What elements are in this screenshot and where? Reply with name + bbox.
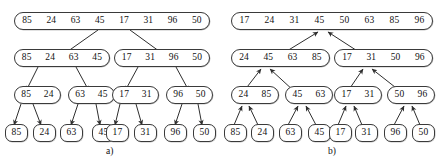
array-cell: 85 bbox=[382, 16, 407, 26]
leaf-value: 96 bbox=[391, 128, 401, 138]
array-cell: 17 bbox=[335, 90, 358, 100]
array-node: 17 24 31 45 50 63 85 96 bbox=[231, 12, 433, 30]
array-cell: 17 bbox=[112, 16, 136, 26]
leaf-value: 85 bbox=[231, 128, 241, 138]
leaf-node: 50 bbox=[193, 124, 216, 142]
leaf-value: 17 bbox=[336, 128, 346, 138]
leaf-node: 96 bbox=[384, 124, 407, 142]
array-node: 17 31 bbox=[334, 86, 382, 104]
array-cell: 45 bbox=[88, 16, 112, 26]
leaf-node: 63 bbox=[60, 124, 83, 142]
leaf-value: 85 bbox=[12, 128, 22, 138]
array-cell: 24 bbox=[39, 16, 63, 26]
array-cell: 50 bbox=[384, 53, 408, 63]
array-cell: 63 bbox=[309, 90, 332, 100]
array-node: 63 45 bbox=[68, 86, 115, 104]
leaf-node: 31 bbox=[134, 124, 157, 142]
leaf-node: 17 bbox=[106, 124, 129, 142]
array-node: 50 96 bbox=[387, 86, 435, 104]
leaf-node: 96 bbox=[164, 124, 187, 142]
leaf-node: 31 bbox=[355, 124, 378, 142]
array-node: 85 24 63 45 bbox=[14, 49, 110, 67]
array-cell: 24 bbox=[232, 53, 256, 63]
panel-a-split-phase: 85 24 63 45 17 31 96 50 85 24 63 45 17 3… bbox=[0, 0, 222, 164]
leaf-node: 50 bbox=[412, 124, 435, 142]
leaf-node: 17 bbox=[329, 124, 352, 142]
leaf-value: 50 bbox=[419, 128, 429, 138]
leaf-value: 63 bbox=[67, 128, 77, 138]
panel-b-caption: b) bbox=[328, 146, 336, 156]
leaf-node: 45 bbox=[308, 124, 331, 142]
leaf-value: 31 bbox=[362, 128, 372, 138]
merge-sort-figure: 85 24 63 45 17 31 96 50 85 24 63 45 17 3… bbox=[0, 0, 444, 164]
array-cell: 63 bbox=[62, 53, 86, 63]
array-cell: 50 bbox=[185, 16, 209, 26]
leaf-node: 24 bbox=[251, 124, 274, 142]
array-cell: 17 bbox=[115, 53, 139, 63]
array-cell: 85 bbox=[305, 53, 329, 63]
leaf-node: 63 bbox=[279, 124, 302, 142]
array-cell: 45 bbox=[256, 53, 280, 63]
array-cell: 50 bbox=[190, 90, 213, 100]
leaf-value: 31 bbox=[141, 128, 151, 138]
array-node: 85 24 63 45 17 31 96 50 bbox=[14, 12, 210, 30]
array-node: 24 85 bbox=[231, 86, 279, 104]
array-node: 24 45 63 85 bbox=[231, 49, 330, 67]
array-cell: 17 bbox=[113, 90, 136, 100]
array-cell: 31 bbox=[282, 16, 307, 26]
array-cell: 31 bbox=[136, 90, 159, 100]
panel-a-caption: a) bbox=[106, 146, 113, 156]
array-node: 85 24 bbox=[14, 86, 61, 104]
leaf-node: 24 bbox=[33, 124, 56, 142]
array-cell: 45 bbox=[307, 16, 332, 26]
array-cell: 45 bbox=[286, 90, 309, 100]
array-cell: 85 bbox=[15, 53, 39, 63]
array-cell: 96 bbox=[167, 90, 190, 100]
array-cell: 50 bbox=[332, 16, 357, 26]
array-node: 17 31 96 50 bbox=[114, 49, 210, 67]
array-cell: 24 bbox=[38, 90, 61, 100]
array-cell: 96 bbox=[162, 53, 186, 63]
array-node: 45 63 bbox=[285, 86, 333, 104]
array-cell: 96 bbox=[407, 16, 432, 26]
panel-b-merge-phase: 17 24 31 45 50 63 85 96 24 45 63 85 17 3… bbox=[222, 0, 444, 164]
leaf-value: 63 bbox=[286, 128, 296, 138]
array-cell: 63 bbox=[64, 16, 88, 26]
array-cell: 31 bbox=[358, 90, 381, 100]
leaf-value: 17 bbox=[113, 128, 123, 138]
array-cell: 17 bbox=[335, 53, 359, 63]
array-cell: 24 bbox=[232, 90, 255, 100]
array-cell: 45 bbox=[86, 53, 110, 63]
array-cell: 85 bbox=[15, 90, 38, 100]
leaf-value: 24 bbox=[40, 128, 50, 138]
array-cell: 31 bbox=[136, 16, 160, 26]
leaf-node: 85 bbox=[5, 124, 28, 142]
array-cell: 24 bbox=[257, 16, 282, 26]
leaf-value: 24 bbox=[258, 128, 268, 138]
array-cell: 63 bbox=[357, 16, 382, 26]
array-cell: 85 bbox=[15, 16, 39, 26]
array-cell: 50 bbox=[186, 53, 210, 63]
leaf-value: 50 bbox=[200, 128, 210, 138]
array-cell: 45 bbox=[92, 90, 115, 100]
array-cell: 96 bbox=[408, 53, 432, 63]
array-cell: 96 bbox=[161, 16, 185, 26]
array-cell: 85 bbox=[255, 90, 278, 100]
array-cell: 63 bbox=[281, 53, 305, 63]
array-cell: 17 bbox=[232, 16, 257, 26]
array-cell: 96 bbox=[411, 90, 434, 100]
array-node: 17 31 50 96 bbox=[334, 49, 433, 67]
array-node: 96 50 bbox=[166, 86, 213, 104]
array-cell: 24 bbox=[39, 53, 63, 63]
array-node: 17 31 bbox=[112, 86, 159, 104]
leaf-value: 45 bbox=[315, 128, 325, 138]
array-cell: 63 bbox=[69, 90, 92, 100]
leaf-node: 85 bbox=[224, 124, 247, 142]
array-cell: 50 bbox=[388, 90, 411, 100]
array-cell: 31 bbox=[359, 53, 383, 63]
array-cell: 31 bbox=[139, 53, 163, 63]
leaf-value: 96 bbox=[171, 128, 181, 138]
